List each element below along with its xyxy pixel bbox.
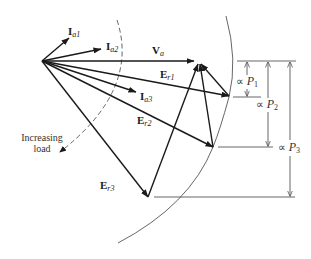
label-p2: ∝ P2: [256, 98, 278, 112]
label-er3: Er3: [100, 180, 114, 193]
increasing-load-note: Increasing load: [18, 133, 66, 154]
label-ia2: Ia2: [106, 41, 118, 54]
ia2-arrow: [42, 49, 101, 61]
drop-3: [148, 64, 198, 197]
phasor-drawing: [0, 0, 311, 259]
er3-arrow: [42, 61, 148, 197]
phasor-diagram: Ia1 Ia2 Va Er1 Ia3 Er2 Er3 Increasing lo…: [0, 0, 311, 259]
label-er1: Er1: [160, 69, 174, 82]
label-va: Va: [152, 45, 164, 58]
emf-locus-arc: [118, 16, 233, 243]
label-er2: Er2: [137, 115, 151, 128]
label-p1: ∝ P1: [236, 75, 258, 89]
er2-arrow: [42, 61, 213, 147]
label-ia1: Ia1: [68, 26, 80, 39]
label-ia3: Ia3: [140, 91, 152, 104]
label-p3: ∝ P3: [278, 141, 300, 155]
